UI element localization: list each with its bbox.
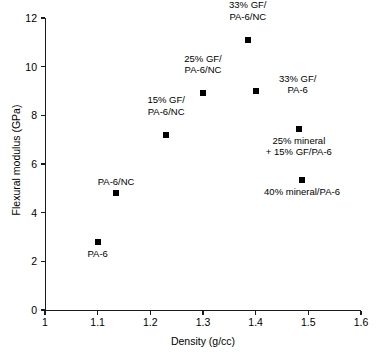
data-point-marker bbox=[299, 177, 305, 183]
x-tick-1.6 bbox=[360, 311, 361, 315]
data-point-label-line: 25% mineral bbox=[266, 135, 332, 147]
x-tick-label-1.5: 1.5 bbox=[288, 317, 328, 328]
data-point-label: 33% GF/PA-6 bbox=[279, 73, 317, 96]
data-point-marker bbox=[296, 126, 302, 132]
y-tick-10 bbox=[41, 66, 45, 67]
y-tick-2 bbox=[41, 261, 45, 262]
y-tick-12 bbox=[41, 17, 45, 18]
y-tick-label-10: 10 bbox=[11, 62, 37, 73]
y-tick-6 bbox=[41, 163, 45, 164]
data-point-label-line: + 15% GF/PA-6 bbox=[266, 146, 332, 158]
data-point-label-line: PA-6/NC bbox=[98, 176, 135, 188]
data-point-label: 25% GF/PA-6/NC bbox=[184, 53, 222, 76]
data-point-marker bbox=[163, 132, 169, 138]
data-point-label-line: 33% GF/ bbox=[229, 0, 267, 11]
y-tick-label-0: 0 bbox=[11, 305, 37, 316]
x-tick-1 bbox=[44, 311, 45, 315]
data-point-label: 15% GF/PA-6/NC bbox=[147, 94, 185, 117]
x-tick-1.4 bbox=[255, 311, 256, 315]
data-point-marker bbox=[95, 239, 101, 245]
x-tick-label-1: 1 bbox=[25, 317, 65, 328]
data-point-label: 33% GF/PA-6/NC bbox=[229, 0, 267, 22]
data-point-marker bbox=[253, 88, 259, 94]
data-point-label-line: PA-6/NC bbox=[184, 64, 222, 76]
data-point-label-line: 33% GF/ bbox=[279, 73, 317, 85]
y-tick-label-12: 12 bbox=[11, 13, 37, 24]
x-tick-1.3 bbox=[202, 311, 203, 315]
data-point-label-line: PA-6 bbox=[87, 248, 107, 260]
y-tick-4 bbox=[41, 212, 45, 213]
data-point-label-line: PA-6 bbox=[279, 84, 317, 96]
y-tick-8 bbox=[41, 115, 45, 116]
x-axis-title: Density (g/cc) bbox=[45, 335, 361, 347]
x-tick-label-1.1: 1.1 bbox=[78, 317, 118, 328]
data-point-label: 25% mineral+ 15% GF/PA-6 bbox=[266, 135, 332, 158]
y-axis-title: Flexural modulus (GPa) bbox=[10, 80, 22, 240]
x-tick-label-1.2: 1.2 bbox=[130, 317, 170, 328]
data-point-label-line: 40% mineral/PA-6 bbox=[264, 186, 340, 198]
data-point-label: PA-6 bbox=[87, 248, 107, 260]
x-tick-1.2 bbox=[150, 311, 151, 315]
flexural-modulus-vs-density-chart: 02468101211.11.21.31.41.51.6 PA-6PA-6/NC… bbox=[0, 0, 379, 363]
data-point-label-line: PA-6/NC bbox=[147, 106, 185, 118]
x-tick-label-1.3: 1.3 bbox=[183, 317, 223, 328]
y-axis-line bbox=[45, 18, 46, 310]
x-tick-label-1.6: 1.6 bbox=[341, 317, 379, 328]
data-point-marker bbox=[245, 37, 251, 43]
x-tick-1.1 bbox=[97, 311, 98, 315]
data-point-label-line: 15% GF/ bbox=[147, 94, 185, 106]
data-point-label-line: 25% GF/ bbox=[184, 53, 222, 65]
data-point-marker bbox=[113, 190, 119, 196]
data-point-label-line: PA-6/NC bbox=[229, 11, 267, 23]
data-point-label: PA-6/NC bbox=[98, 176, 135, 188]
y-tick-label-2: 2 bbox=[11, 256, 37, 267]
x-tick-label-1.4: 1.4 bbox=[236, 317, 276, 328]
x-tick-1.5 bbox=[308, 311, 309, 315]
data-point-label: 40% mineral/PA-6 bbox=[264, 186, 340, 198]
data-point-marker bbox=[200, 90, 206, 96]
